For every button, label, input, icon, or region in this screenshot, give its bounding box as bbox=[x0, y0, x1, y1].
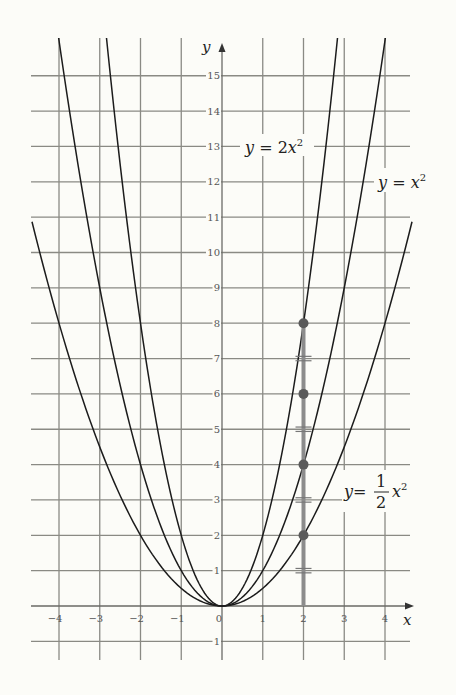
x-tick-label: 0 bbox=[216, 613, 222, 624]
data-point bbox=[299, 460, 309, 470]
y-tick-label: 3 bbox=[214, 494, 220, 505]
eq-var: x bbox=[411, 173, 420, 192]
y-tick-label: 7 bbox=[214, 353, 220, 364]
y-tick-label: 1 bbox=[214, 636, 220, 647]
y-tick-label: 4 bbox=[214, 459, 220, 470]
x-axis-arrow-icon bbox=[405, 603, 414, 610]
eq-frac-num: 1 bbox=[376, 472, 386, 491]
x-tick-label: 3 bbox=[341, 613, 347, 624]
y-tick-label: 6 bbox=[214, 388, 220, 399]
y-tick-label: 15 bbox=[207, 70, 220, 81]
eq-var: x bbox=[392, 482, 401, 501]
x-tick-label: 2 bbox=[300, 613, 306, 624]
y-tick-label: 14 bbox=[207, 106, 220, 117]
x-tick-label: −3 bbox=[88, 613, 103, 624]
x-tick-label: 4 bbox=[382, 613, 388, 624]
x-tick-label: 1 bbox=[260, 613, 266, 624]
label-y-2x2: y = 2x2 bbox=[240, 134, 314, 157]
eq-var: x bbox=[288, 138, 297, 157]
eq-sup: 2 bbox=[297, 137, 303, 148]
eq-rhs: = bbox=[387, 173, 411, 192]
y-tick-label: 1 bbox=[214, 565, 220, 576]
label-y-half-x2: y= 1 2 x2 bbox=[342, 470, 418, 512]
data-point bbox=[299, 389, 309, 399]
eq-sup: 2 bbox=[401, 481, 407, 492]
label-y-x2: y = x2 bbox=[374, 168, 444, 192]
eq-rhs: = 2 bbox=[254, 138, 288, 157]
eq-frac-den: 2 bbox=[376, 493, 386, 512]
svg-text:y=: y= bbox=[343, 482, 366, 501]
x-tick-label: −4 bbox=[48, 613, 63, 624]
data-point bbox=[299, 318, 309, 328]
x-axis-label: x bbox=[403, 611, 412, 629]
y-tick-label: 13 bbox=[207, 141, 220, 152]
y-axis-arrow-icon bbox=[219, 43, 226, 52]
x-tick-label: −2 bbox=[129, 613, 144, 624]
y-tick-label: 5 bbox=[214, 424, 220, 435]
y-tick-label: 10 bbox=[207, 247, 220, 258]
axes bbox=[31, 43, 414, 660]
y-tick-label: 2 bbox=[214, 530, 220, 541]
y-tick-label: 8 bbox=[214, 318, 220, 329]
eq-sup: 2 bbox=[420, 172, 426, 183]
y-tick-label: 9 bbox=[214, 282, 220, 293]
svg-text:y = x2: y = x2 bbox=[377, 172, 426, 192]
data-point bbox=[299, 530, 309, 540]
eq-rhs: = bbox=[353, 482, 366, 501]
parabola-chart: −4−3−2−1012341123456789101112131415 y = … bbox=[0, 0, 456, 695]
x-tick-label: −1 bbox=[170, 613, 185, 624]
y-axis-label: y bbox=[201, 38, 211, 56]
y-tick-label: 12 bbox=[207, 176, 220, 187]
y-tick-label: 11 bbox=[207, 212, 220, 223]
svg-text:y = 2x2: y = 2x2 bbox=[244, 137, 303, 157]
